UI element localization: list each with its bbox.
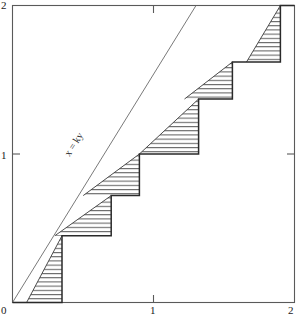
chart-figure: 2 1 0 1 2 x = ky bbox=[0, 0, 304, 327]
y-axis-tick-label-2: 2 bbox=[1, 0, 7, 11]
plot-canvas bbox=[0, 0, 304, 327]
x-axis-tick-label-1: 1 bbox=[150, 305, 156, 316]
x-axis-tick-label-2: 2 bbox=[288, 305, 294, 316]
y-axis-tick-label-1: 1 bbox=[1, 150, 7, 161]
y-axis-tick-label-0: 0 bbox=[1, 305, 7, 316]
